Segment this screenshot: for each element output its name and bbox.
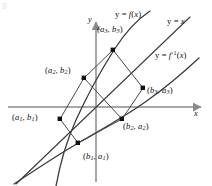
point-label-a2b2: (a2, b2) xyxy=(45,66,71,76)
connector-a3-a2 xyxy=(84,50,113,78)
point-label-a3b3: (a3, b3) xyxy=(97,25,123,35)
x-axis-label: x xyxy=(194,110,198,118)
inverse-function-figure: g xyxy=(0,0,212,186)
identity-line-label: y = x xyxy=(167,17,185,26)
point-label-a1b1: (a1, b1) xyxy=(12,113,38,123)
point-label-b3a3: (b3, a3) xyxy=(147,86,173,96)
point-marker-a3b3 xyxy=(111,48,115,52)
point-label-b1a1: (b1, a1) xyxy=(83,152,109,162)
reflection-segment-3 xyxy=(113,50,143,88)
point-marker-a1b1 xyxy=(58,117,62,121)
point-marker-a2b2 xyxy=(82,76,86,80)
f-inverse-curve-label: y = f-1(x) xyxy=(155,50,187,59)
f-curve-label: y = f(x) xyxy=(115,10,141,19)
point-label-b2a2: (b2, a2) xyxy=(123,122,149,132)
point-marker-b1a1 xyxy=(76,141,80,145)
connector-b2-b1 xyxy=(78,119,122,143)
connector-a2-a1 xyxy=(60,78,84,119)
point-marker-b3a3 xyxy=(141,86,145,90)
connector-b3-b2 xyxy=(122,88,143,119)
y-axis-label: y xyxy=(88,16,92,24)
inverse-function-curve xyxy=(14,58,199,184)
